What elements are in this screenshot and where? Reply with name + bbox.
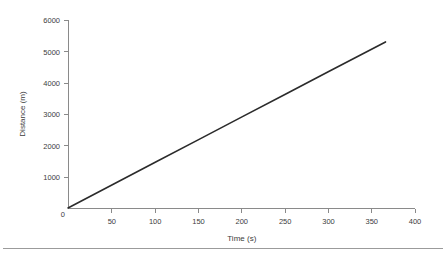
x-axis-title: Time (s)	[227, 234, 256, 243]
x-tick-label: 200	[236, 217, 249, 226]
distance-time-chart: 6000 5000 4000 3000 2000 1000 0 50 100 1…	[0, 0, 446, 257]
y-tick-label: 1000	[43, 173, 60, 182]
chart-background	[0, 0, 446, 257]
x-tick-label: 150	[192, 217, 205, 226]
y-tick-label: 5000	[43, 48, 60, 57]
x-tick-label: 400	[409, 217, 422, 226]
x-tick-label: 100	[149, 217, 162, 226]
origin-tick-label: 0	[61, 210, 65, 219]
y-axis-title: Distance (m)	[18, 91, 27, 137]
y-tick-label: 6000	[43, 16, 60, 25]
x-tick-label: 300	[322, 217, 335, 226]
x-tick-label: 350	[366, 217, 379, 226]
x-tick-label: 50	[108, 217, 116, 226]
y-tick-label: 3000	[43, 110, 60, 119]
y-tick-label: 4000	[43, 79, 60, 88]
x-tick-label: 250	[279, 217, 292, 226]
y-tick-label: 2000	[43, 142, 60, 151]
